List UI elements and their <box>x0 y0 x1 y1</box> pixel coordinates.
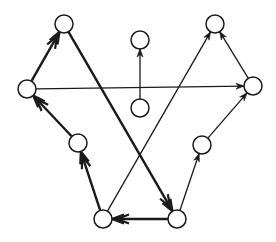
edge-D-A <box>31 32 59 81</box>
graph-canvas <box>0 0 276 242</box>
arrowhead-icon <box>204 32 211 40</box>
node-B <box>131 31 149 49</box>
edge-G-D <box>33 96 72 137</box>
arrowhead-icon <box>220 32 227 40</box>
node-G <box>69 134 87 152</box>
edges-layer <box>31 32 248 224</box>
edge-J-H <box>180 154 200 211</box>
edge-A-J <box>69 32 173 211</box>
edge-F-C <box>220 32 249 79</box>
node-E <box>131 99 149 117</box>
edge-H-F <box>208 93 247 138</box>
edge-I-G <box>80 152 100 211</box>
node-F <box>244 77 262 95</box>
node-C <box>206 15 224 33</box>
edge-J-I <box>112 215 168 224</box>
node-D <box>18 80 36 98</box>
node-A <box>55 15 73 33</box>
node-H <box>193 136 211 154</box>
edge-E-B <box>137 49 143 99</box>
edge-I-C <box>107 32 210 211</box>
node-J <box>168 210 186 228</box>
node-I <box>94 210 112 228</box>
